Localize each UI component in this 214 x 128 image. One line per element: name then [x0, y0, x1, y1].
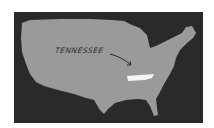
contiguous-us-landmass	[21, 19, 196, 116]
us-map	[0, 0, 214, 128]
state-label: TENNESSEE	[54, 46, 104, 55]
